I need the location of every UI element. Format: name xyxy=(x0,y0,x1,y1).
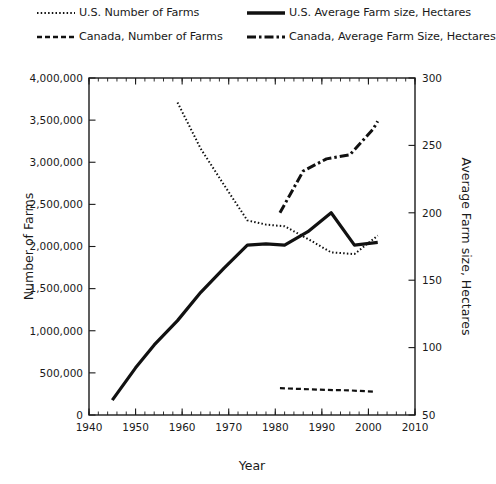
legend-label: U.S. Number of Farms xyxy=(79,6,199,19)
y-axis-title-right: Average Farm size, Hectares xyxy=(459,158,474,336)
y-tick-label-left: 3,000,000 xyxy=(30,156,83,168)
legend-item: Canada, Average Farm Size, Hectares xyxy=(246,30,496,43)
legend-line-swatch-1 xyxy=(246,7,286,19)
y-tick-label-right: 150 xyxy=(422,274,442,286)
y-tick-label-left: 4,000,000 xyxy=(30,72,83,84)
legend-line-swatch-2 xyxy=(36,31,76,43)
legend-item: U.S. Average Farm size, Hectares xyxy=(246,6,471,19)
series-line-2 xyxy=(280,388,373,391)
x-tick-label: 1990 xyxy=(308,421,335,433)
y-tick-label-left: 2,500,000 xyxy=(30,198,83,210)
y-tick-label-left: 3,500,000 xyxy=(30,114,83,126)
y-tick-label-left: 1,500,000 xyxy=(30,282,83,294)
y-tick-label-right: 250 xyxy=(422,139,442,151)
x-tick-label: 1960 xyxy=(169,421,196,433)
series-line-3 xyxy=(280,121,378,213)
legend-label: U.S. Average Farm size, Hectares xyxy=(289,6,471,19)
y-tick-label-right: 50 xyxy=(422,409,435,421)
x-axis-title: Year xyxy=(238,458,266,473)
y-tick-label-right: 300 xyxy=(422,72,442,84)
series-line-0 xyxy=(177,102,377,254)
legend-line-swatch-0 xyxy=(36,7,76,19)
legend-label: Canada, Number of Farms xyxy=(79,30,223,43)
y-tick-label-right: 200 xyxy=(422,207,442,219)
y-axis-title-left: Number of Farms xyxy=(21,193,36,301)
series-line-1 xyxy=(112,213,377,400)
x-tick-label: 1950 xyxy=(122,421,149,433)
legend-label: Canada, Average Farm Size, Hectares xyxy=(289,30,496,43)
chart-legend: U.S. Number of Farms U.S. Average Farm s… xyxy=(0,0,487,56)
y-tick-label-left: 2,000,000 xyxy=(30,240,83,252)
x-tick-label: 1940 xyxy=(76,421,103,433)
y-tick-label-left: 1,000,000 xyxy=(30,325,83,337)
y-tick-label-left: 0 xyxy=(76,409,83,421)
x-tick-label: 2000 xyxy=(355,421,382,433)
x-tick-label: 2010 xyxy=(402,421,429,433)
x-tick-label: 1980 xyxy=(262,421,289,433)
legend-item: Canada, Number of Farms xyxy=(36,30,223,43)
chart-series xyxy=(112,102,377,400)
x-tick-label: 1970 xyxy=(215,421,242,433)
legend-item: U.S. Number of Farms xyxy=(36,6,199,19)
y-tick-label-left: 500,000 xyxy=(40,367,83,379)
legend-line-swatch-3 xyxy=(246,31,286,43)
y-tick-label-right: 100 xyxy=(422,341,442,353)
